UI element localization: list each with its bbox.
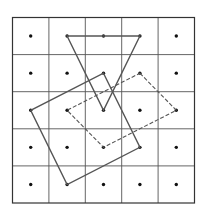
grid-dot — [29, 71, 32, 74]
grid-dot — [65, 71, 68, 74]
grid-dot — [175, 146, 178, 149]
grid-dot — [175, 34, 178, 37]
grid-dot — [29, 183, 32, 186]
grid-dot — [138, 183, 141, 186]
grid-dot — [65, 146, 68, 149]
grid-dot — [102, 183, 105, 186]
grid-dot — [175, 71, 178, 74]
grid-dot — [29, 34, 32, 37]
grid-dot — [29, 146, 32, 149]
polygons — [31, 36, 177, 185]
grid-dot — [138, 109, 141, 112]
dot-grid-figure — [0, 0, 200, 214]
grid-dot — [175, 183, 178, 186]
